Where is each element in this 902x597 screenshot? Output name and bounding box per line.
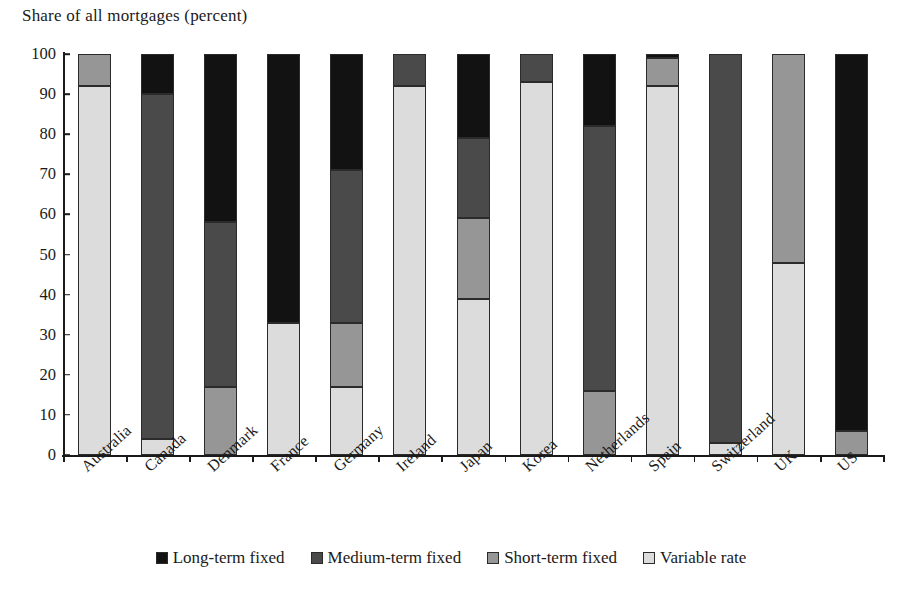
bar-segment[interactable]	[457, 299, 490, 455]
bar-segment[interactable]	[457, 54, 490, 138]
bar-segment[interactable]	[457, 218, 490, 298]
bar-segment[interactable]	[520, 82, 553, 455]
x-tick-mark	[757, 455, 759, 462]
x-tick-mark	[568, 455, 570, 462]
y-tick-label: 50	[40, 245, 57, 265]
bar-switzerland[interactable]	[709, 54, 742, 455]
bar-segment[interactable]	[646, 86, 679, 455]
bar-australia[interactable]	[78, 54, 111, 455]
bar-canada[interactable]	[141, 54, 174, 455]
legend-label: Long-term fixed	[173, 548, 285, 568]
y-tick-label: 10	[40, 405, 57, 425]
bar-segment[interactable]	[583, 126, 616, 391]
bar-segment[interactable]	[457, 138, 490, 218]
x-tick-mark	[315, 455, 317, 462]
bar-segment[interactable]	[141, 94, 174, 439]
bar-segment[interactable]	[646, 58, 679, 86]
bar-segment[interactable]	[393, 54, 426, 86]
bar-segment[interactable]	[78, 54, 111, 86]
bar-spain[interactable]	[646, 54, 679, 455]
stacked-bar-chart: Share of all mortgages (percent) 0102030…	[0, 0, 902, 597]
bar-segment[interactable]	[772, 54, 805, 263]
x-tick-mark	[189, 455, 191, 462]
bar-uk[interactable]	[772, 54, 805, 455]
legend-item[interactable]: Variable rate	[643, 548, 746, 568]
legend-item[interactable]: Long-term fixed	[156, 548, 285, 568]
legend-swatch-icon	[487, 552, 499, 564]
bar-segment[interactable]	[141, 54, 174, 94]
legend-swatch-icon	[643, 552, 655, 564]
bar-segment[interactable]	[646, 54, 679, 58]
legend-item[interactable]: Short-term fixed	[487, 548, 617, 568]
legend-swatch-icon	[156, 552, 168, 564]
x-tick-mark	[252, 455, 254, 462]
bar-segment[interactable]	[267, 54, 300, 323]
bar-netherlands[interactable]	[583, 54, 616, 455]
x-tick-mark	[694, 455, 696, 462]
legend-label: Short-term fixed	[504, 548, 617, 568]
y-tick-label: 70	[40, 164, 57, 184]
bar-segment[interactable]	[204, 222, 237, 386]
x-tick-mark	[126, 455, 128, 462]
bar-segment[interactable]	[835, 54, 868, 431]
bar-germany[interactable]	[330, 54, 363, 455]
bar-ireland[interactable]	[393, 54, 426, 455]
bar-segment[interactable]	[330, 170, 363, 322]
bar-segment[interactable]	[520, 54, 553, 82]
plot-area	[63, 54, 883, 455]
bar-segment[interactable]	[583, 54, 616, 126]
bar-japan[interactable]	[457, 54, 490, 455]
x-tick-mark	[631, 455, 633, 462]
x-tick-mark	[883, 455, 885, 462]
x-tick-mark	[63, 455, 65, 462]
bar-us[interactable]	[835, 54, 868, 455]
bar-segment[interactable]	[330, 54, 363, 170]
y-tick-label: 80	[40, 124, 57, 144]
y-tick-label: 40	[40, 285, 57, 305]
x-tick-mark	[378, 455, 380, 462]
y-tick-label: 60	[40, 204, 57, 224]
chart-axis-title: Share of all mortgages (percent)	[22, 6, 247, 26]
x-tick-mark	[505, 455, 507, 462]
bar-segment[interactable]	[772, 263, 805, 455]
legend-label: Variable rate	[660, 548, 746, 568]
legend-item[interactable]: Medium-term fixed	[311, 548, 462, 568]
bar-korea[interactable]	[520, 54, 553, 455]
y-tick-label: 0	[48, 445, 56, 465]
bar-segment[interactable]	[393, 86, 426, 455]
y-axis-tick-labels: 0102030405060708090100	[14, 54, 56, 455]
y-tick-label: 20	[40, 365, 57, 385]
y-tick-label: 30	[40, 325, 57, 345]
bar-segment[interactable]	[204, 54, 237, 222]
y-tick-label: 100	[31, 44, 56, 64]
x-tick-mark	[820, 455, 822, 462]
legend-swatch-icon	[311, 552, 323, 564]
bar-segment[interactable]	[709, 54, 742, 443]
bar-denmark[interactable]	[204, 54, 237, 455]
bar-france[interactable]	[267, 54, 300, 455]
bar-segment[interactable]	[78, 86, 111, 455]
bar-segment[interactable]	[330, 323, 363, 387]
x-tick-mark	[441, 455, 443, 462]
chart-legend: Long-term fixedMedium-term fixedShort-te…	[0, 548, 902, 568]
y-tick-label: 90	[40, 84, 57, 104]
legend-label: Medium-term fixed	[328, 548, 462, 568]
